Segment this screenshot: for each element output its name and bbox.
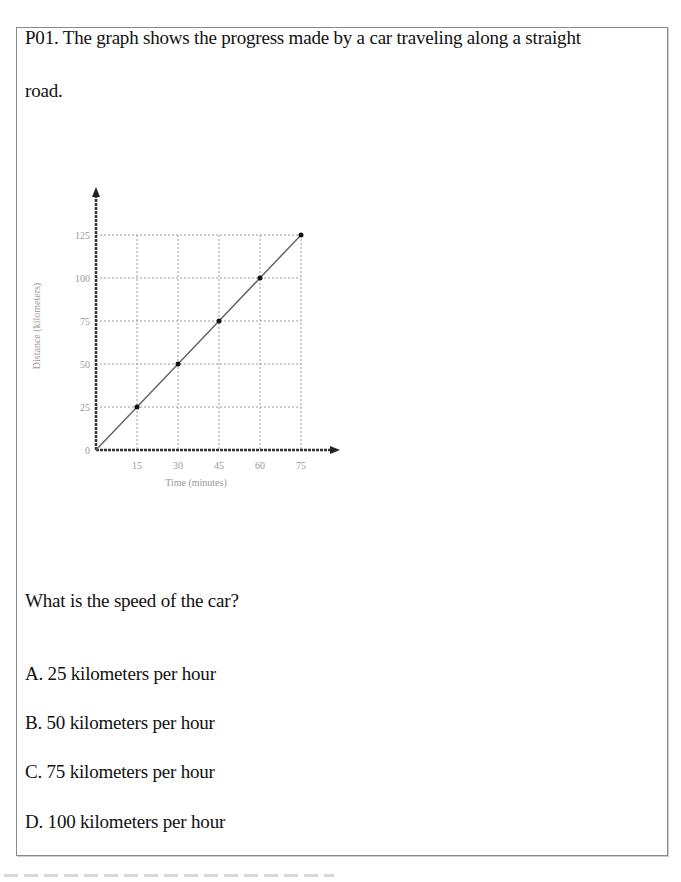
y-tick: 50 <box>80 359 90 370</box>
x-tick: 60 <box>255 460 265 471</box>
y-tick: 125 <box>75 230 90 241</box>
x-axis-label: Time (minutes) <box>165 477 227 489</box>
distance-time-chart: 0 25 50 75 100 125 15 30 45 60 75 Time (… <box>0 0 681 882</box>
question-text: What is the speed of the car? <box>25 590 239 612</box>
y-axis-label: Distance (kilometers) <box>31 283 43 369</box>
y-axis-arrow-icon <box>92 187 100 197</box>
x-tick: 75 <box>296 460 306 471</box>
option-d[interactable]: D. 100 kilometers per hour <box>25 811 225 833</box>
x-axis-arrow-icon <box>330 446 340 454</box>
y-tick: 100 <box>75 273 90 284</box>
option-c[interactable]: C. 75 kilometers per hour <box>25 761 215 783</box>
y-tick: 0 <box>85 445 90 456</box>
x-tick: 15 <box>132 460 142 471</box>
y-tick: 75 <box>80 316 90 327</box>
y-tick: 25 <box>80 402 90 413</box>
x-tick: 45 <box>214 460 224 471</box>
clipped-text-fragment <box>4 874 334 877</box>
series-line <box>96 235 301 450</box>
option-a[interactable]: A. 25 kilometers per hour <box>25 663 216 685</box>
option-b[interactable]: B. 50 kilometers per hour <box>25 712 215 734</box>
x-tick: 30 <box>173 460 183 471</box>
